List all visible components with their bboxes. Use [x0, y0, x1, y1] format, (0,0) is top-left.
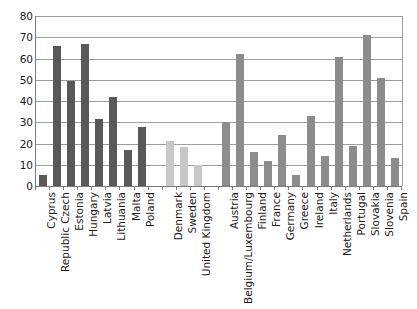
bar — [363, 35, 371, 186]
bar — [278, 135, 286, 186]
x-axis-tick-label: Germany — [285, 192, 296, 240]
x-axis-tick — [288, 186, 289, 190]
x-axis-tick — [317, 186, 318, 190]
x-axis-tick-label: Republic Czech — [60, 192, 71, 272]
x-axis-tick-label: Slovakia — [370, 192, 381, 236]
x-axis-tick-label: Spain — [398, 192, 409, 221]
x-axis-tick-label: Denmark — [173, 192, 184, 240]
bar-chart: 01020304050607080 CyprusRepublic CzechEs… — [0, 0, 417, 309]
x-axis-tick-label: United Kingdom — [201, 192, 212, 276]
x-axis-tick-label: Greece — [299, 192, 310, 229]
x-axis: CyprusRepublic CzechEstoniaHungaryLatvia… — [35, 192, 402, 307]
plot-area — [35, 16, 402, 187]
bar — [391, 158, 399, 186]
y-axis-tick-label: 70 — [20, 31, 33, 43]
y-axis-tick-label: 20 — [20, 138, 33, 150]
bar — [53, 46, 61, 186]
bar — [222, 122, 230, 186]
bar — [39, 175, 47, 186]
y-axis-tick-label: 30 — [20, 116, 33, 128]
x-axis-tick — [232, 186, 233, 190]
y-axis-tick-label: 50 — [20, 74, 33, 86]
x-axis-tick — [218, 186, 219, 190]
x-axis-tick — [246, 186, 247, 190]
x-axis-tick — [49, 186, 50, 190]
x-axis-tick — [204, 186, 205, 190]
bar — [67, 81, 75, 186]
bar — [180, 147, 188, 186]
plot-right-border — [402, 16, 403, 186]
x-axis-tick-label: Estonia — [74, 192, 85, 231]
x-axis-ticks — [35, 186, 402, 191]
x-axis-tick-label: Portugal — [356, 192, 367, 236]
x-axis-tick-label: Cyprus — [46, 192, 57, 229]
x-axis-tick-label: Italy — [328, 192, 339, 215]
x-axis-tick-label: Malta — [131, 192, 142, 221]
x-axis-tick — [77, 186, 78, 190]
y-axis-tick-label: 80 — [20, 10, 33, 22]
x-axis-tick — [148, 186, 149, 190]
x-axis-tick — [162, 186, 163, 190]
bar — [166, 141, 174, 186]
y-axis-tick-label: 0 — [26, 180, 33, 192]
bar — [335, 57, 343, 186]
y-axis: 01020304050607080 — [0, 11, 33, 191]
x-axis-tick — [387, 186, 388, 190]
x-axis-tick-label: Slovenia — [384, 192, 395, 237]
x-axis-tick-label: Belgium/Luxembourg — [243, 192, 254, 304]
x-axis-tick — [176, 186, 177, 190]
x-axis-tick — [359, 186, 360, 190]
bar — [377, 78, 385, 186]
y-axis-tick-label: 60 — [20, 53, 33, 65]
x-axis-tick-label: Hungary — [88, 192, 99, 237]
x-axis-tick-label: Poland — [145, 192, 156, 227]
x-axis-tick — [91, 186, 92, 190]
bar — [349, 146, 357, 186]
bar — [321, 156, 329, 186]
bar — [95, 119, 103, 186]
bar — [250, 152, 258, 186]
x-axis-tick-label: Sweden — [187, 192, 198, 234]
x-axis-tick — [302, 186, 303, 190]
bar — [124, 150, 132, 186]
x-axis-tick — [260, 186, 261, 190]
x-axis-tick — [331, 186, 332, 190]
x-axis-tick-label: Ireland — [314, 192, 325, 228]
bar — [194, 165, 202, 186]
x-axis-tick — [401, 186, 402, 190]
bar — [109, 97, 117, 186]
x-axis-tick-label: Finland — [257, 192, 268, 230]
x-axis-tick-label: Austria — [229, 192, 240, 229]
y-axis-tick-label: 40 — [20, 95, 33, 107]
x-axis-tick — [345, 186, 346, 190]
bar — [264, 161, 272, 187]
y-axis-tick-label: 10 — [20, 159, 33, 171]
x-axis-tick — [35, 186, 36, 190]
bar — [292, 175, 300, 186]
bars-layer — [36, 16, 402, 186]
x-axis-tick-label: France — [271, 192, 282, 227]
x-axis-tick — [63, 186, 64, 190]
x-axis-tick — [190, 186, 191, 190]
bar — [81, 44, 89, 186]
bar — [236, 54, 244, 186]
x-axis-tick-label: Latvia — [102, 192, 113, 224]
bar — [307, 116, 315, 186]
bar — [138, 127, 146, 187]
x-axis-tick-label: Lithuania — [116, 192, 127, 241]
x-axis-tick — [119, 186, 120, 190]
x-axis-tick-label: Netherlands — [342, 192, 353, 256]
x-axis-tick — [373, 186, 374, 190]
x-axis-tick — [105, 186, 106, 190]
x-axis-tick — [274, 186, 275, 190]
x-axis-tick — [134, 186, 135, 190]
